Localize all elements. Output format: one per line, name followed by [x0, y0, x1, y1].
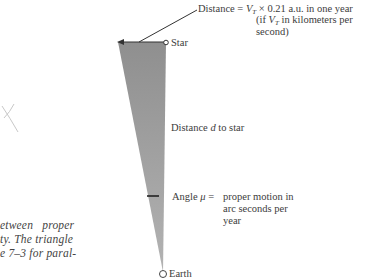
- caption-line-1: etween proper: [0, 218, 74, 232]
- tangential-distance-label-line3: second): [256, 26, 289, 38]
- star-marker-icon: [164, 40, 169, 45]
- caption-line-3: e 7–3 for paral-: [0, 246, 76, 260]
- earth-marker-icon: [160, 271, 167, 278]
- earth-label: Earth: [169, 268, 192, 280]
- angle-description-line3: year: [223, 215, 241, 227]
- caption-line-2: ty. The triangle: [0, 232, 73, 246]
- star-label: Star: [171, 37, 188, 49]
- angle-description-line1: proper motion in: [223, 191, 294, 203]
- parallax-triangle: [118, 42, 166, 272]
- angle-description-line2: arc seconds per: [223, 203, 288, 215]
- angle-label: Angle μ =: [172, 191, 214, 203]
- pencil-mark: [2, 104, 18, 132]
- leader-line: [139, 10, 197, 42]
- distance-d-label: Distance d to star: [171, 122, 244, 134]
